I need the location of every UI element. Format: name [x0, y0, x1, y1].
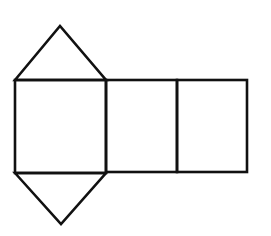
prism-net-diagram	[0, 0, 271, 236]
bottom-triangle-face	[15, 173, 106, 224]
top-triangle-face	[15, 26, 106, 80]
left-rectangle-face	[15, 80, 106, 173]
middle-rectangle-face	[106, 80, 177, 172]
right-rectangle-face	[177, 80, 247, 172]
